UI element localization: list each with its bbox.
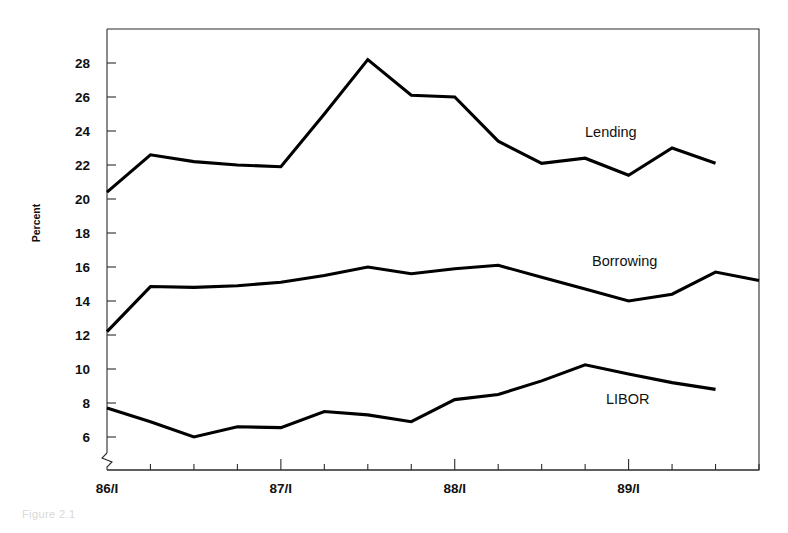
y-tick-label: 6 [82, 430, 90, 445]
y-tick-label: 28 [75, 56, 91, 71]
y-tick-label: 14 [75, 294, 91, 309]
libor-label: LIBOR [606, 391, 650, 407]
y-tick-label: 8 [82, 396, 90, 411]
figure-caption: Figure 2.1 [22, 508, 76, 520]
x-tick-label: 89/I [617, 481, 640, 496]
borrowing-label: Borrowing [592, 253, 657, 269]
x-tick-labels: 86/I87/I88/I89/I [96, 481, 640, 496]
x-tick-label: 87/I [270, 481, 293, 496]
line-chart: 6810121416182022242628 86/I87/I88/I89/I … [0, 0, 788, 533]
y-tick-label: 10 [75, 362, 90, 377]
series-line-borrowing [107, 265, 759, 331]
lending-label: Lending [585, 124, 637, 140]
y-axis-title: Percent [30, 203, 42, 242]
y-tick-label: 16 [75, 260, 91, 275]
y-tick-labels: 6810121416182022242628 [75, 56, 91, 445]
y-tick-marks [107, 63, 116, 437]
x-tick-label: 86/I [96, 481, 119, 496]
y-axis-break-icon [102, 453, 112, 470]
y-tick-label: 24 [75, 124, 91, 139]
y-tick-label: 20 [75, 192, 90, 207]
y-tick-label: 12 [75, 328, 90, 343]
x-tick-marks [150, 459, 759, 470]
y-tick-label: 22 [75, 158, 90, 173]
figure-container: 6810121416182022242628 86/I87/I88/I89/I … [0, 0, 788, 533]
y-tick-label: 18 [75, 226, 91, 241]
y-tick-label: 26 [75, 90, 91, 105]
x-tick-label: 88/I [443, 481, 466, 496]
